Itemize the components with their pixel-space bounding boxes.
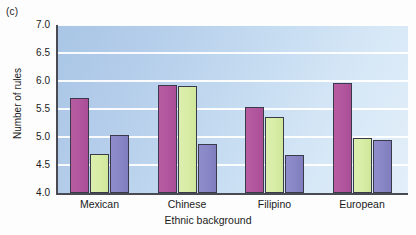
x-tick-label: Filipino — [258, 198, 291, 210]
bar — [90, 154, 109, 193]
bar — [198, 144, 217, 193]
x-tick-label: European — [339, 198, 385, 210]
bar — [158, 85, 177, 193]
bar — [285, 155, 304, 193]
figure-panel: (c) Number of rules 4.04.55.05.56.06.57.… — [0, 0, 416, 235]
bar — [110, 135, 129, 193]
plot-area — [58, 25, 408, 193]
x-axis-tick-labels: MexicanChineseFilipinoEuropean — [58, 198, 408, 214]
bar — [353, 138, 372, 193]
y-tick-label: 5.0 — [36, 132, 50, 142]
x-axis-title: Ethnic background — [0, 214, 416, 226]
bar — [265, 117, 284, 193]
x-axis-line — [56, 193, 408, 195]
y-tick-label: 5.5 — [36, 104, 50, 114]
y-tick-label: 4.5 — [36, 160, 50, 170]
y-tick-label: 6.5 — [36, 48, 50, 58]
bar — [373, 140, 392, 193]
y-axis-tick-labels: 4.04.55.05.56.06.57.0 — [0, 0, 56, 235]
bar — [333, 83, 352, 193]
bar — [178, 86, 197, 193]
y-tick-label: 4.0 — [36, 188, 50, 198]
x-tick-label: Chinese — [168, 198, 207, 210]
bar — [245, 107, 264, 193]
y-axis-line — [56, 25, 58, 195]
bar — [70, 98, 89, 193]
y-tick-label: 7.0 — [36, 20, 50, 30]
y-tick-label: 6.0 — [36, 76, 50, 86]
bar-group-container — [58, 25, 408, 193]
x-tick-label: Mexican — [80, 198, 119, 210]
